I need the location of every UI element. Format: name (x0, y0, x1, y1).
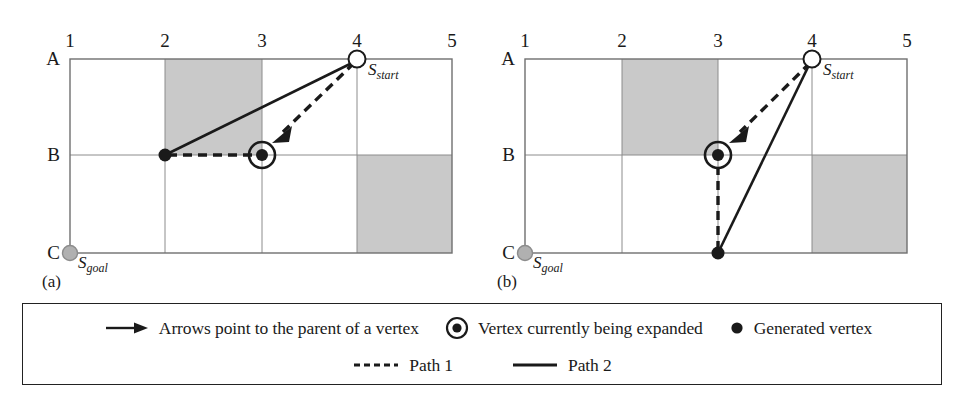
legend-item-arrow: Arrows point to the parent of a vertex (104, 318, 419, 339)
panel-caption-a: (a) (42, 272, 61, 292)
arrowhead-icon (272, 126, 292, 143)
solid-line-icon (511, 360, 559, 370)
start-label-main: S (823, 60, 832, 79)
goal-vertex-label: Sgoal (533, 253, 563, 276)
goal-label-main: S (533, 253, 542, 272)
column-label-1: 1 (520, 30, 530, 52)
path1-dashed-segment (740, 63, 810, 132)
row-label-b: B (47, 144, 60, 166)
start-vertex-label: Sstart (368, 60, 399, 83)
legend-row-paths: Path 1 Path 2 (23, 348, 941, 382)
legend-item-path2: Path 2 (511, 355, 612, 376)
dashed-line-icon (352, 360, 400, 370)
row-label-a: A (46, 48, 60, 70)
start-label-sub: start (377, 68, 399, 82)
legend-item-generated-vertex: Generated vertex (729, 318, 872, 339)
path1-dashed-segment (283, 63, 354, 132)
row-label-c: C (502, 242, 515, 264)
legend-label-path2: Path 2 (568, 355, 612, 376)
legend-label-generated-vertex: Generated vertex (754, 318, 872, 339)
column-label-5: 5 (902, 30, 912, 52)
generated-vertex-dot (712, 247, 725, 260)
column-label-5: 5 (447, 30, 457, 52)
column-label-1: 1 (65, 30, 75, 52)
start-vertex-label: Sstart (823, 60, 854, 83)
goal-label-sub: goal (87, 261, 108, 275)
arrowhead-icon (729, 126, 749, 143)
column-label-3: 3 (257, 30, 267, 52)
panel-caption-b: (b) (497, 272, 517, 292)
row-label-a: A (501, 48, 515, 70)
row-label-c: C (47, 242, 60, 264)
row-label-b: B (502, 144, 515, 166)
expanded-vertex-icon (445, 316, 469, 340)
panel-a: 1 2 3 4 5 A B C Sstart Sgoal (a) (0, 0, 484, 300)
start-label-sub: start (832, 68, 854, 82)
legend-label-expanded-vertex: Vertex currently being expanded (478, 318, 703, 339)
column-label-2: 2 (617, 30, 627, 52)
obstacle-block (165, 59, 262, 155)
legend-item-path1: Path 1 (352, 355, 453, 376)
expanded-vertex-dot (256, 149, 268, 161)
column-label-2: 2 (160, 30, 170, 52)
column-label-3: 3 (713, 30, 723, 52)
goal-vertex-label: Sgoal (78, 253, 108, 276)
obstacle-block (357, 155, 452, 253)
panels-container: 1 2 3 4 5 A B C Sstart Sgoal (a) (0, 0, 968, 300)
goal-label-main: S (78, 253, 87, 272)
panel-b: 1 2 3 4 5 A B C Sstart Sgoal (b) (484, 0, 968, 300)
generated-vertex-dot (159, 149, 172, 162)
obstacle-block (812, 155, 907, 253)
column-label-4: 4 (807, 30, 817, 52)
column-label-4: 4 (352, 30, 362, 52)
generated-vertex-icon (729, 320, 745, 336)
figure-root: 1 2 3 4 5 A B C Sstart Sgoal (a) (0, 0, 968, 404)
start-vertex-circle (349, 51, 366, 68)
legend-label-arrow: Arrows point to the parent of a vertex (159, 318, 419, 339)
goal-vertex-circle (63, 246, 78, 261)
expanded-vertex-dot (712, 149, 724, 161)
legend-item-expanded-vertex: Vertex currently being expanded (445, 316, 703, 340)
legend-box: Arrows point to the parent of a vertex V… (22, 303, 942, 385)
legend-row-primary: Arrows point to the parent of a vertex V… (23, 304, 941, 348)
start-vertex-circle (804, 51, 821, 68)
start-label-main: S (368, 60, 377, 79)
obstacle-block (622, 59, 718, 155)
legend-label-path1: Path 1 (409, 355, 453, 376)
goal-label-sub: goal (542, 261, 563, 275)
arrow-icon (104, 320, 150, 336)
goal-vertex-circle (518, 246, 533, 261)
